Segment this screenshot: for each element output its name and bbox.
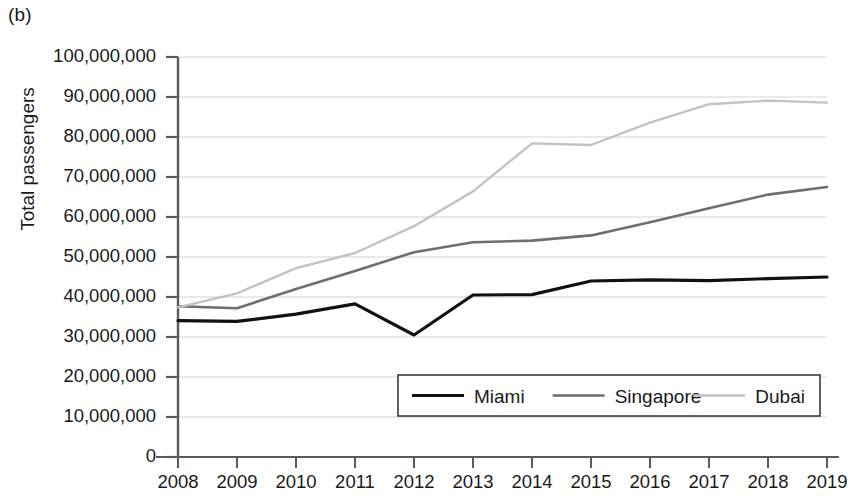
legend-label-miami: Miami <box>474 386 525 407</box>
legend-label-dubai: Dubai <box>755 386 805 407</box>
series-line-singapore <box>178 187 827 308</box>
chart-legend: MiamiSingaporeDubai <box>398 375 820 416</box>
y-axis-ticks <box>166 57 178 457</box>
series-line-miami <box>178 277 827 335</box>
series-lines <box>178 101 827 335</box>
legend-label-singapore: Singapore <box>615 386 702 407</box>
x-axis-ticks <box>178 457 827 468</box>
